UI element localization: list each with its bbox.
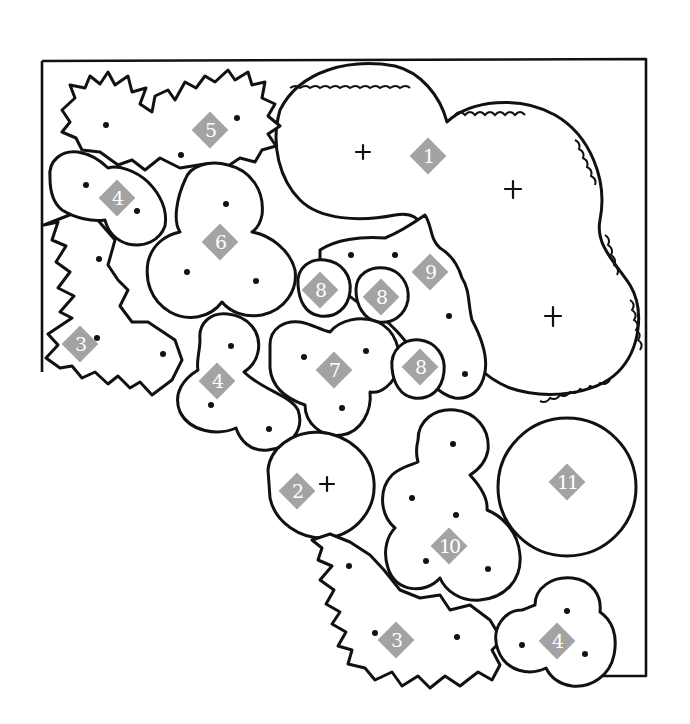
plant-center-dot xyxy=(485,566,491,572)
plant-marker-8[interactable]: 8 xyxy=(362,278,400,316)
plant-marker-3[interactable]: 3 xyxy=(61,325,99,363)
plant-center-dot xyxy=(346,563,352,569)
plant-center-dot xyxy=(564,608,570,614)
plant-center-dot xyxy=(392,252,398,258)
plant-center-dot xyxy=(184,269,190,275)
plant-center-dot xyxy=(582,651,588,657)
plant-center-dot xyxy=(96,256,102,262)
marker-number: 4 xyxy=(538,622,576,660)
plant-center-dot xyxy=(301,354,307,360)
marker-number: 4 xyxy=(98,179,136,217)
plant-center-dot xyxy=(363,348,369,354)
marker-number: 3 xyxy=(377,621,415,659)
plant-marker-5[interactable]: 5 xyxy=(191,111,229,149)
plant-center-dot xyxy=(228,343,234,349)
plant-center-dot xyxy=(409,495,415,501)
plant-center-dot xyxy=(178,152,184,158)
plant-center-dot xyxy=(423,558,429,564)
marker-number: 11 xyxy=(548,463,586,501)
plant-center-dot xyxy=(450,441,456,447)
plant-center-dot xyxy=(454,634,460,640)
plant-center-dot xyxy=(208,402,214,408)
plant-marker-9[interactable]: 9 xyxy=(411,253,449,291)
marker-number: 8 xyxy=(401,348,439,386)
plant-center-dot xyxy=(253,278,259,284)
marker-number: 9 xyxy=(411,253,449,291)
plant-center-dot xyxy=(339,405,345,411)
plant-marker-6[interactable]: 6 xyxy=(201,223,239,261)
plant-marker-11[interactable]: 11 xyxy=(548,463,586,501)
plant-center-dot xyxy=(462,371,468,377)
plant-marker-1[interactable]: 1 xyxy=(409,137,447,175)
plant-center-dot xyxy=(453,512,459,518)
plant-marker-4[interactable]: 4 xyxy=(198,362,236,400)
marker-number: 6 xyxy=(201,223,239,261)
plant-marker-8[interactable]: 8 xyxy=(401,348,439,386)
plant-center-dot xyxy=(266,426,272,432)
plant-center-dot xyxy=(160,351,166,357)
plant-group-5 xyxy=(62,70,280,170)
plant-center-dot xyxy=(519,642,525,648)
marker-number: 1 xyxy=(409,137,447,175)
plant-center-dot xyxy=(234,115,240,121)
plant-marker-3[interactable]: 3 xyxy=(377,621,415,659)
marker-number: 5 xyxy=(191,111,229,149)
marker-number: 4 xyxy=(198,362,236,400)
marker-number: 10 xyxy=(430,527,468,565)
marker-number: 7 xyxy=(315,351,353,389)
plant-marker-10[interactable]: 10 xyxy=(430,527,468,565)
plant-center-dot xyxy=(83,182,89,188)
marker-number: 3 xyxy=(61,325,99,363)
plant-marker-4[interactable]: 4 xyxy=(98,179,136,217)
marker-number: 8 xyxy=(301,271,339,309)
plant-marker-7[interactable]: 7 xyxy=(315,351,353,389)
marker-number: 8 xyxy=(362,278,400,316)
marker-number: 2 xyxy=(278,472,316,510)
plant-center-dot xyxy=(348,252,354,258)
plant-center-dot xyxy=(103,122,109,128)
plant-marker-4[interactable]: 4 xyxy=(538,622,576,660)
plant-marker-2[interactable]: 2 xyxy=(278,472,316,510)
plant-center-dot xyxy=(223,201,229,207)
plant-center-dot xyxy=(446,313,452,319)
plant-marker-8[interactable]: 8 xyxy=(301,271,339,309)
